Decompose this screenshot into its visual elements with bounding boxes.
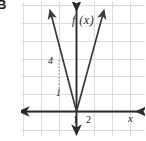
x-tick-label-2: 2 bbox=[86, 114, 91, 125]
function-left-branch bbox=[51, 14, 77, 112]
graph-panel: f (x) 4 1 1 2 x bbox=[21, 2, 145, 136]
x-tick-label-1: 1 bbox=[73, 114, 78, 125]
function-right-branch bbox=[77, 14, 104, 112]
slope-rise-label: 4 bbox=[48, 55, 53, 66]
figure-container: B bbox=[0, 0, 146, 141]
function-label: f (x) bbox=[72, 13, 94, 28]
x-axis-label: x bbox=[128, 112, 133, 124]
slope-run-label: 1 bbox=[56, 87, 61, 98]
exercise-number-label: B bbox=[0, 0, 5, 11]
